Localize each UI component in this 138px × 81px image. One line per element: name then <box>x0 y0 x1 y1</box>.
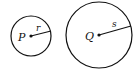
radius-s-label: s <box>112 19 117 29</box>
diagram-canvas: P r Q s <box>0 0 138 81</box>
center-q-label: Q <box>85 30 94 43</box>
center-q-dot <box>97 33 100 36</box>
circle-p-group: P r <box>11 16 51 56</box>
center-p-dot <box>29 34 32 37</box>
center-p-label: P <box>17 31 26 44</box>
radius-r-line <box>31 31 51 36</box>
circle-q-group: Q s <box>66 2 132 68</box>
radius-r-label: r <box>36 23 41 33</box>
